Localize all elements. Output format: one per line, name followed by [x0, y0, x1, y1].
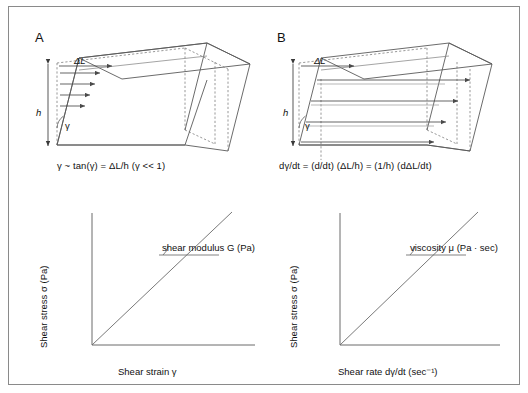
panel-b-delta-l-label: ΔL [314, 55, 326, 66]
panel-letter-a: A [35, 30, 44, 45]
figure-container: A B [0, 0, 528, 393]
plot-left-x-axis-label: Shear strain γ [118, 366, 177, 377]
panel-a-gamma-label: γ [65, 120, 70, 131]
panel-letter-b: B [277, 30, 286, 45]
panel-b-equation: dγ/dt = (d/dt) (ΔL/h) = (1/h) (dΔL/dt) [279, 160, 432, 171]
plot-left-slope-annotation: shear modulus G (Pa) [162, 242, 255, 253]
plot-left-y-axis-label: Shear stress σ (Pa) [38, 266, 49, 348]
plot-right-y-axis-label: Shear stress σ (Pa) [288, 266, 299, 348]
panel-b-gamma-label: γ [305, 120, 310, 131]
panel-a-delta-l-label: ΔL [74, 55, 86, 66]
plot-right-x-axis-label: Shear rate dγ/dt (sec⁻¹) [338, 366, 438, 377]
panel-b-height-label: h [283, 107, 288, 118]
plot-right-slope-annotation: viscosity μ (Pa · sec) [410, 242, 498, 253]
panel-a-equation: γ ~ tan(γ) = ΔL/h (γ << 1) [57, 160, 165, 171]
panel-a-height-label: h [36, 107, 41, 118]
